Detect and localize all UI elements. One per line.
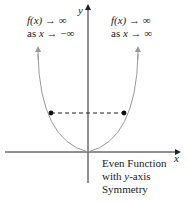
caption-line2: with y-axis	[102, 170, 151, 183]
left-point	[49, 111, 54, 116]
right-annotation-line1: f(x) → ∞	[111, 14, 151, 27]
caption-line1: Even Function	[102, 157, 166, 170]
caption-line3: Symmetry	[102, 183, 148, 196]
left-annotation-line1: f(x) → ∞	[27, 14, 67, 27]
right-point	[122, 111, 127, 116]
y-axis-label: y	[78, 4, 83, 17]
right-annotation-line2: as x → ∞	[111, 27, 152, 40]
x-axis-label: x	[174, 152, 179, 165]
left-annotation-line2: as x → −∞	[27, 27, 74, 40]
